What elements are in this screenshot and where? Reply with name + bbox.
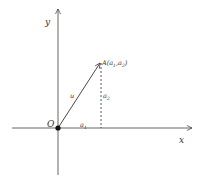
vector-u-arrow bbox=[58, 63, 100, 128]
origin-dot bbox=[55, 125, 60, 130]
component-a1-label: a1 bbox=[80, 121, 87, 130]
y-axis-label: y bbox=[44, 17, 51, 27]
x-axis-label: x bbox=[179, 135, 184, 145]
vector-diagram: y x O A(a1,a2) u a2 a1 bbox=[0, 0, 200, 185]
origin-label: O bbox=[47, 119, 55, 129]
point-a-label: A(a1,a2) bbox=[101, 59, 128, 68]
vector-u-label: u bbox=[70, 92, 74, 100]
component-a2-label: a2 bbox=[103, 92, 110, 101]
